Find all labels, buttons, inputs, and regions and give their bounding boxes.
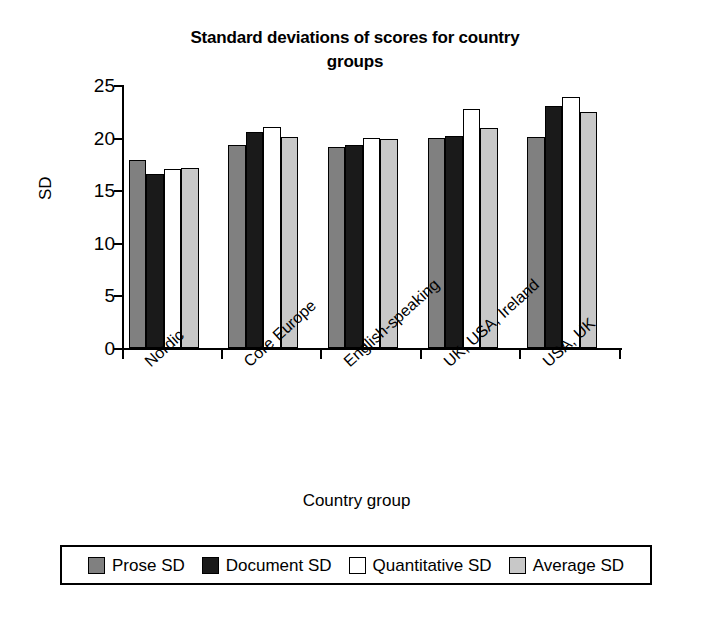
legend-swatch-icon — [509, 557, 526, 574]
x-axis-tick-mark — [320, 348, 322, 359]
legend-label: Document SD — [226, 557, 332, 574]
x-axis-tick-mark — [619, 348, 621, 359]
bar — [228, 145, 246, 348]
y-axis-tick-label: 25 — [94, 76, 115, 95]
bar — [146, 174, 164, 348]
bar — [363, 138, 381, 348]
x-axis-tick-mark — [519, 348, 521, 359]
chart-legend: Prose SDDocument SDQuantitative SDAverag… — [60, 545, 652, 585]
y-axis-title: SD — [36, 176, 56, 200]
x-axis-title: Country group — [0, 491, 713, 511]
y-axis-tick-label: 15 — [94, 181, 115, 200]
y-axis-tick-label: 5 — [104, 286, 115, 305]
bar — [428, 138, 446, 348]
legend-item[interactable]: Average SD — [509, 557, 624, 574]
legend-item[interactable]: Prose SD — [88, 557, 185, 574]
bar — [164, 169, 182, 348]
bar-group — [520, 85, 620, 348]
x-axis-tick-mark — [420, 348, 422, 359]
bar — [263, 127, 281, 348]
bar — [246, 132, 264, 348]
bar — [527, 137, 545, 348]
legend-swatch-icon — [88, 557, 105, 574]
legend-swatch-icon — [349, 557, 366, 574]
x-axis-tick-mark — [122, 348, 124, 359]
bar — [345, 145, 363, 348]
legend-label: Average SD — [533, 557, 624, 574]
bar — [445, 136, 463, 349]
legend-label: Prose SD — [112, 557, 185, 574]
y-axis-tick-mark — [114, 243, 122, 245]
bar — [580, 112, 598, 348]
y-axis-tick-label: 20 — [94, 128, 115, 147]
bar — [545, 106, 563, 348]
x-axis-tick-mark — [221, 348, 223, 359]
plot-area: 0510152025 — [122, 85, 620, 348]
y-axis-tick-mark — [114, 348, 122, 350]
chart-title: Standard deviations of scores for countr… — [135, 26, 575, 74]
y-axis-tick-mark — [114, 295, 122, 297]
y-axis-tick-mark — [114, 190, 122, 192]
bar — [328, 147, 346, 348]
bar — [181, 168, 199, 348]
legend-item[interactable]: Quantitative SD — [349, 557, 492, 574]
y-axis-tick-label: 10 — [94, 233, 115, 252]
y-axis-tick-mark — [114, 138, 122, 140]
legend-label: Quantitative SD — [373, 557, 492, 574]
bar-group — [122, 85, 222, 348]
chart-title-line-1: Standard deviations of scores for countr… — [135, 26, 575, 50]
bar — [129, 160, 147, 348]
bar — [562, 97, 580, 348]
legend-swatch-icon — [202, 557, 219, 574]
legend-item[interactable]: Document SD — [202, 557, 332, 574]
chart-title-line-2: groups — [135, 50, 575, 74]
bar — [463, 109, 481, 348]
y-axis-tick-mark — [114, 85, 122, 87]
y-axis-tick-label: 0 — [104, 339, 115, 358]
